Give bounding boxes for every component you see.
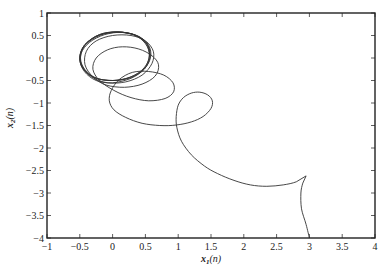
x-tick-label: 0.5 — [139, 241, 152, 252]
y-tick-label: −2.5 — [26, 165, 44, 176]
y-tick-label: −1 — [33, 98, 44, 109]
y-axis-label: x2(n) — [4, 107, 17, 129]
plot-frame — [47, 13, 375, 238]
y-tick-label: −3.5 — [26, 210, 44, 221]
x-tick-label: 0 — [110, 241, 115, 252]
y-tick-label: −2 — [33, 143, 44, 154]
x-tick-label: 3.5 — [336, 241, 349, 252]
axis-ticks — [47, 13, 375, 238]
y-tick-label: 0 — [39, 53, 44, 64]
trajectory-line — [80, 32, 310, 238]
y-tick-label: 1 — [39, 8, 44, 19]
x-axis-label: x1(n) — [200, 253, 222, 266]
phase-plot: −1−0.500.511.522.533.5410.50−0.5−1−1.5−2… — [0, 0, 390, 280]
y-tick-label: −1.5 — [26, 120, 44, 131]
x-tick-label: 4 — [373, 241, 378, 252]
y-tick-label: −4 — [33, 233, 44, 244]
y-tick-label: −3 — [33, 188, 44, 199]
axis-tick-labels: −1−0.500.511.522.533.5410.50−0.5−1−1.5−2… — [26, 8, 378, 253]
y-tick-label: 0.5 — [32, 30, 45, 41]
x-tick-label: 3 — [307, 241, 312, 252]
x-tick-label: 2 — [241, 241, 246, 252]
x-tick-label: 1 — [176, 241, 181, 252]
y-tick-label: −0.5 — [26, 75, 44, 86]
x-tick-label: 1.5 — [205, 241, 218, 252]
x-tick-label: 2.5 — [270, 241, 283, 252]
x-tick-label: −0.5 — [71, 241, 89, 252]
